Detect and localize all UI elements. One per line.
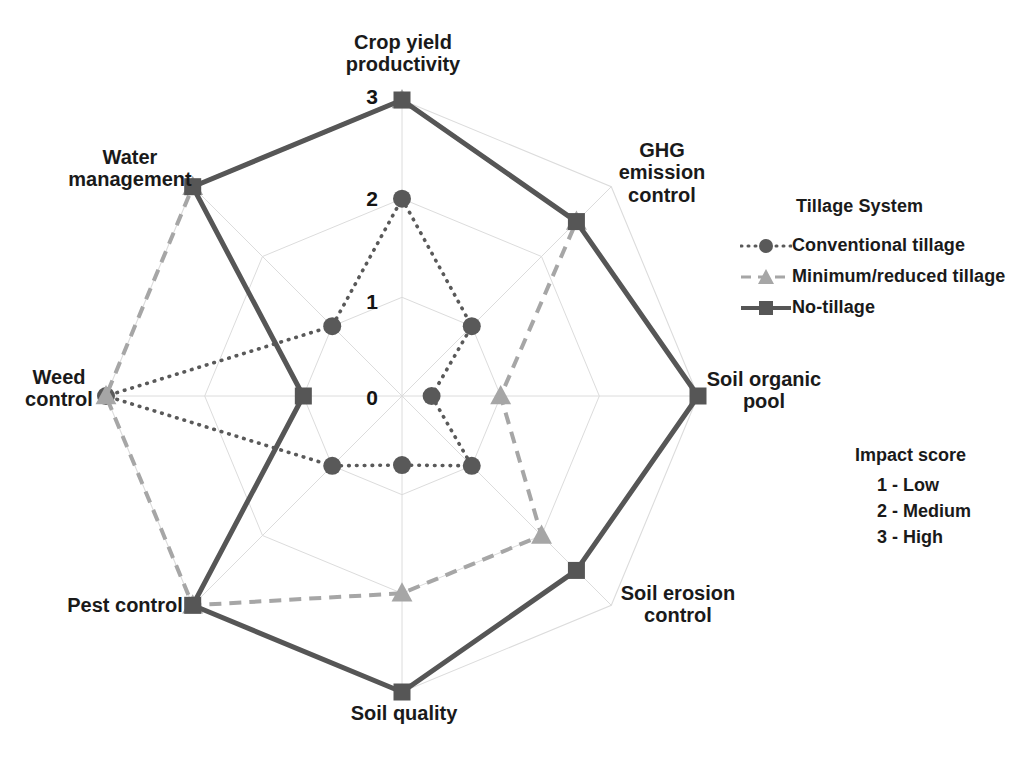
data-point-marker: [393, 456, 411, 474]
legend-label-conventional-tillage: Conventional tillage: [792, 235, 965, 256]
legend-label-no-tillage: No-tillage: [792, 297, 875, 318]
axis-label-soil-erosion-control: Soil erosion control: [612, 582, 744, 627]
radar-chart-figure: 0 1 2 3 Crop yield productivity GHG emis…: [0, 0, 1026, 757]
legend-key-dotted-circle-icon: [740, 235, 792, 257]
tick-label-2: 2: [352, 187, 378, 211]
data-point-marker: [394, 92, 411, 109]
data-point-marker: [323, 457, 341, 475]
data-point-marker: [463, 317, 481, 335]
legend-item-no-tillage[interactable]: No-tillage: [740, 292, 1005, 323]
axis-label-water-management: Water management: [54, 146, 206, 191]
radar-plot-area: [0, 0, 1026, 757]
data-point-marker: [568, 562, 585, 579]
data-point-marker: [393, 190, 411, 208]
legend-label-minimum-reduced-tillage: Minimum/reduced tillage: [792, 266, 1005, 287]
data-point-marker: [568, 213, 585, 230]
data-point-marker: [531, 525, 552, 544]
tick-label-1: 1: [352, 290, 378, 314]
axis-label-pest-control: Pest control: [52, 594, 198, 616]
legend-item-conventional-tillage[interactable]: Conventional tillage: [740, 230, 1005, 261]
legend-key-solid-square-icon: [740, 297, 792, 319]
impact-score-item-high: 3 - High: [877, 524, 971, 550]
tick-label-0: 0: [352, 386, 378, 410]
data-point-marker: [295, 388, 312, 405]
axis-label-soil-organic-pool: Soil organic pool: [700, 368, 828, 413]
chart-legend: Tillage System Conventional tillage Mini…: [740, 196, 1005, 323]
data-point-marker: [323, 317, 341, 335]
axis-label-weed-control: Weed control: [6, 366, 112, 411]
legend-title: Tillage System: [796, 196, 1005, 217]
impact-score-legend: Impact score 1 - Low 2 - Medium 3 - High: [855, 445, 971, 550]
tick-label-3: 3: [352, 85, 378, 109]
data-point-marker: [423, 387, 441, 405]
legend-item-minimum-reduced-tillage[interactable]: Minimum/reduced tillage: [740, 261, 1005, 292]
axis-label-ghg-emission-control: GHG emission control: [610, 139, 714, 206]
data-point-marker: [490, 385, 511, 404]
impact-score-title: Impact score: [855, 445, 971, 466]
impact-score-item-low: 1 - Low: [877, 472, 971, 498]
data-point-marker: [463, 457, 481, 475]
axis-label-soil-quality: Soil quality: [334, 702, 474, 724]
impact-score-item-medium: 2 - Medium: [877, 498, 971, 524]
legend-key-dashed-triangle-icon: [740, 266, 792, 288]
data-point-marker: [394, 684, 411, 701]
axis-label-crop-yield-productivity: Crop yield productivity: [332, 31, 474, 76]
